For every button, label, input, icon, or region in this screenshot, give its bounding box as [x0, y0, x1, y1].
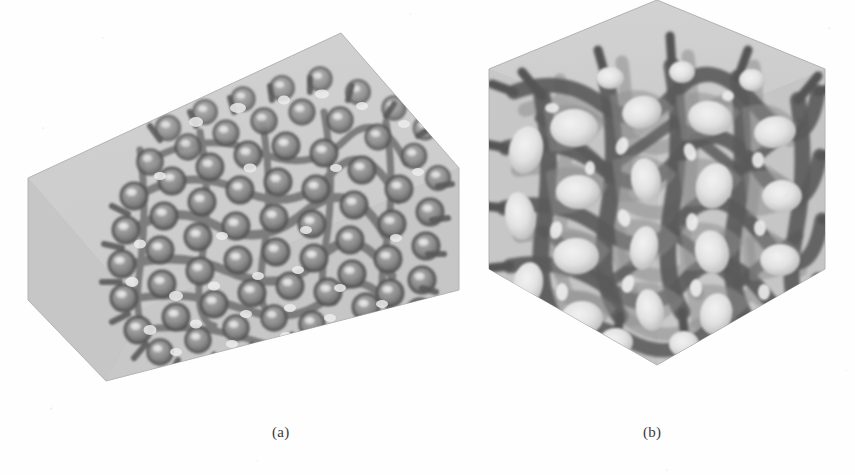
figure-page: (a) (b)	[0, 0, 855, 475]
caption-b: (b)	[643, 424, 661, 441]
figure-panel-b	[470, 0, 855, 400]
foam-render-b	[470, 0, 855, 400]
caption-a: (a)	[272, 424, 290, 441]
foam-render-a	[0, 0, 480, 400]
figure-panel-a	[0, 0, 480, 400]
